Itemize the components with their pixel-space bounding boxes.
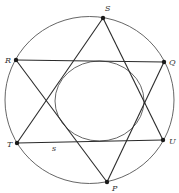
point-q xyxy=(162,60,166,64)
label-t: T xyxy=(7,140,13,149)
point-u xyxy=(161,138,165,142)
segment-qp xyxy=(107,62,164,182)
label-p: P xyxy=(111,184,118,193)
label-u: U xyxy=(169,137,176,146)
point-s xyxy=(101,16,105,20)
label-q: Q xyxy=(169,58,176,67)
point-p xyxy=(105,180,109,184)
label-s: S xyxy=(105,4,111,13)
star-segments xyxy=(16,18,164,182)
point-t xyxy=(15,141,19,145)
label-r: R xyxy=(4,56,11,65)
vertex-labels: SRQTUP xyxy=(4,4,176,193)
hexagram-circle-diagram: SRQTUP s xyxy=(0,0,179,193)
annotation-side-length: s xyxy=(52,144,56,153)
side-annotations: s xyxy=(52,144,56,153)
point-r xyxy=(14,58,18,62)
segment-st xyxy=(17,18,103,143)
segment-su xyxy=(103,18,163,140)
